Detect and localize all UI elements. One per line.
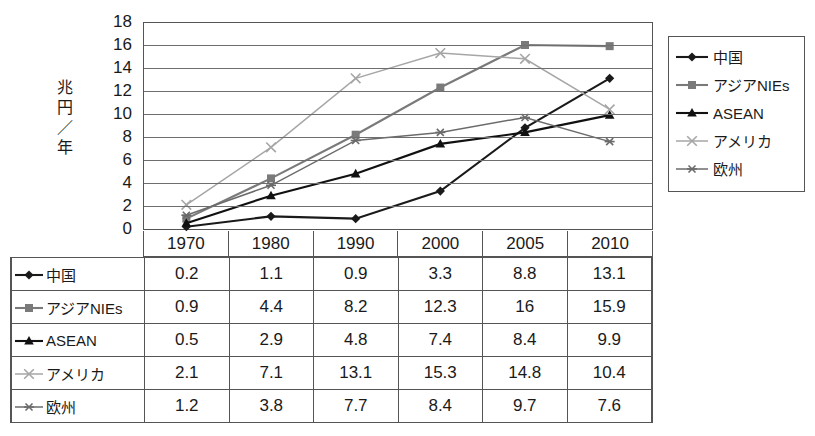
asterisk-marker-icon (14, 399, 44, 413)
gridline-14 (144, 68, 652, 69)
series-line (186, 78, 609, 226)
x-axis-label-2000: 2000 (398, 231, 483, 256)
table-row-label: アジアNIEs (46, 297, 123, 318)
table-cell: 15.3 (398, 357, 483, 390)
y-axis-title: 兆円 ／ 年 (52, 78, 78, 158)
asterisk-marker-icon (14, 400, 44, 414)
table-row: ASEAN0.52.94.87.48.49.9 (12, 324, 652, 357)
series-3 (182, 48, 615, 209)
cross-marker-icon (182, 200, 192, 210)
x-axis-label-1980: 1980 (229, 231, 314, 256)
table-cell: 4.8 (314, 324, 399, 357)
gridline-16 (144, 45, 652, 46)
table-cell: 8.8 (483, 258, 568, 291)
table-row-header: 欧州 (12, 390, 145, 423)
table-cell: 7.4 (398, 324, 483, 357)
diamond-marker-icon (24, 270, 33, 279)
table-row-header: アメリカ (12, 357, 145, 390)
diamond-marker-icon (605, 74, 614, 83)
diamond-marker-icon (351, 214, 360, 223)
table-row: アジアNIEs0.94.48.212.31615.9 (12, 291, 652, 324)
chart-page: 兆円 ／ 年 18 16 14 12 10 8 6 4 2 0 中国アジアNIE… (0, 0, 815, 436)
asterisk-marker-icon (687, 166, 697, 173)
y-tick-10: 10 (100, 105, 132, 122)
diamond-marker-icon (675, 50, 709, 64)
gridline-6 (144, 160, 652, 161)
square-marker-icon (14, 301, 44, 315)
footer-scan-artifact (360, 426, 690, 435)
asterisk-marker-icon (675, 162, 709, 176)
legend-item-2[interactable]: ASEAN (675, 99, 804, 127)
table-cell: 10.4 (567, 357, 652, 390)
gridline-8 (144, 137, 652, 138)
legend-item-1[interactable]: アジアNIEs (675, 71, 804, 99)
y-tick-2: 2 (100, 197, 132, 214)
table-cell: 0.2 (145, 258, 230, 291)
asterisk-marker-icon (675, 162, 709, 176)
square-marker-icon (267, 174, 275, 182)
table-cell: 1.1 (229, 258, 314, 291)
y-tick-14: 14 (100, 59, 132, 76)
table-cell: 8.2 (314, 291, 399, 324)
cross-marker-icon (675, 134, 709, 148)
diamond-marker-icon (14, 267, 44, 281)
legend-item-0[interactable]: 中国 (675, 43, 804, 71)
legend-item-label: 中国 (713, 50, 743, 65)
table-row-label: 欧州 (46, 396, 76, 417)
square-marker-icon (675, 78, 709, 92)
series-2 (182, 110, 615, 227)
table-cell: 15.9 (567, 291, 652, 324)
gridline-2 (144, 206, 652, 207)
table-cell: 7.7 (314, 390, 399, 423)
legend-item-3[interactable]: アメリカ (675, 127, 804, 155)
table-row: 欧州1.23.87.78.49.77.6 (12, 390, 652, 423)
triangle-marker-icon (675, 106, 709, 120)
table-cell: 3.3 (398, 258, 483, 291)
legend-item-label: アメリカ (713, 134, 772, 149)
series-value-table: 中国0.21.10.93.38.813.1アジアNIEs0.94.48.212.… (11, 257, 652, 423)
table-cell: 7.6 (567, 390, 652, 423)
cross-marker-icon (266, 143, 276, 153)
table-cell: 9.7 (483, 390, 568, 423)
y-tick-12: 12 (100, 82, 132, 99)
y-tick-18: 18 (100, 13, 132, 30)
table-cell: 13.1 (314, 357, 399, 390)
chart-legend: 中国アジアNIEsASEANアメリカ欧州 (668, 36, 805, 192)
table-row-label: 中国 (46, 264, 76, 285)
y-tick-4: 4 (100, 174, 132, 191)
x-axis-label-2005: 2005 (483, 231, 568, 256)
table-cell: 0.9 (145, 291, 230, 324)
x-axis-category-strip: 197019801990200020052010 (143, 231, 653, 257)
legend-item-4[interactable]: 欧州 (675, 155, 804, 183)
table-cell: 0.9 (314, 258, 399, 291)
table-row-header: 中国 (12, 258, 145, 291)
y-tick-8: 8 (100, 128, 132, 145)
table-row-label: アメリカ (46, 363, 105, 384)
square-marker-icon (606, 42, 614, 50)
series-line (186, 117, 609, 215)
asterisk-marker-icon (24, 404, 34, 411)
table-cell: 12.3 (398, 291, 483, 324)
legend-item-label: ASEAN (713, 106, 764, 121)
asterisk-marker-icon (520, 114, 530, 121)
square-marker-icon (14, 300, 44, 314)
series-line (186, 115, 609, 223)
y-tick-16: 16 (100, 36, 132, 53)
asterisk-marker-icon (435, 129, 445, 136)
asterisk-marker-icon (605, 138, 615, 145)
triangle-marker-icon (14, 333, 44, 347)
x-axis-label-2010: 2010 (568, 231, 652, 256)
diamond-marker-icon (266, 212, 275, 221)
x-axis-label-1990: 1990 (314, 231, 399, 256)
diamond-marker-icon (14, 268, 44, 282)
table-row: 中国0.21.10.93.38.813.1 (12, 258, 652, 291)
square-marker-icon (675, 78, 709, 92)
square-marker-icon (688, 81, 696, 89)
table-cell: 13.1 (567, 258, 652, 291)
table-cell: 4.4 (229, 291, 314, 324)
gridline-10 (144, 114, 652, 115)
data-table: 中国0.21.10.93.38.813.1アジアNIEs0.94.48.212.… (10, 257, 653, 423)
table-row-header: ASEAN (12, 324, 145, 357)
series-0 (182, 74, 615, 232)
table-cell: 3.8 (229, 390, 314, 423)
